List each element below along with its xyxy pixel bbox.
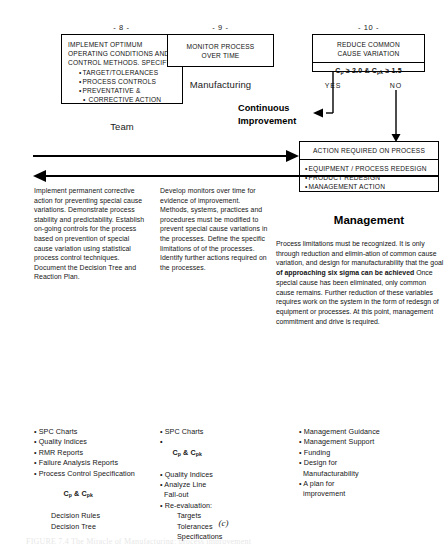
deliverable-item: RMR Reports	[34, 448, 174, 458]
deliverable-item: A plan for	[299, 479, 439, 489]
deliverables-management: Management Guidance Management Support F…	[299, 427, 439, 500]
step-8-bullet-last: CORRECTIVE ACTION	[79, 95, 182, 104]
description-team: Implement permanent corrective action fo…	[34, 186, 147, 282]
step-8-box-content: IMPLEMENT OPTIMUM OPERATING CONDITIONS A…	[62, 35, 182, 104]
branch-label-yes: YES	[318, 82, 348, 89]
step-10-box-title: REDUCE COMMON CAUSE VARIATION	[313, 35, 424, 58]
deliverable-item: Re-evaluation:	[160, 501, 280, 511]
deliverable-item: Manufacturability	[299, 469, 439, 479]
deliverable-item: Design for	[299, 458, 439, 468]
cpk-subscript: pk	[196, 451, 202, 457]
action-item: MANAGEMENT ACTION	[305, 182, 438, 191]
description-management: Process limitations must be recognized. …	[276, 239, 444, 326]
deliverable-item: Management Support	[299, 437, 439, 447]
deliverable-item: improvement	[299, 489, 439, 499]
description-management-part1: Process limitations must be recognized. …	[276, 240, 443, 266]
deliverable-item: Failure Analysis Reports	[34, 458, 174, 468]
deliverable-item: SPC Charts	[160, 427, 280, 437]
step-9-box-content: MONITOR PROCESS OVER TIME	[168, 35, 273, 60]
return-flow-arrowhead	[33, 170, 46, 182]
action-item: EQUIPMENT / PROCESS REDESIGN	[305, 164, 438, 173]
cpk-subscript: pk	[87, 492, 93, 498]
figure-caption-tail: FIGURE 7.4 The Miracle of Manufacturing:…	[26, 537, 446, 544]
deliverables-team: SPC Charts Quality Indices RMR Reports F…	[34, 427, 174, 532]
deliverable-item: Management Guidance	[299, 427, 439, 437]
action-required-header: ACTION REQUIRED ON PROCESS	[300, 142, 438, 155]
step-8-box[interactable]: IMPLEMENT OPTIMUM OPERATING CONDITIONS A…	[61, 34, 183, 104]
role-label-team: Team	[61, 121, 183, 132]
step-8-number: - 8 -	[60, 23, 183, 32]
figure-caption: (c)	[0, 518, 447, 528]
step-9-number: - 9 -	[167, 23, 274, 32]
deliverable-item: Quality Indices	[160, 470, 280, 480]
deliverable-item: Quality Indices	[34, 437, 174, 447]
continuous-improvement-label: Continuous Improvement	[238, 102, 318, 127]
deliverable-item-cp-cpk: Cp & Cpk	[34, 479, 174, 511]
deliverable-item: Fall-out	[160, 490, 280, 500]
deliverable-item-cp-cpk: Cp & Cpk	[160, 437, 280, 469]
deliverable-item: Analyze Line	[160, 480, 280, 490]
step-10-box[interactable]: REDUCE COMMON CAUSE VARIATION Cp ≥ 2.0 &…	[312, 34, 425, 72]
step-8-bullet: TARGET/TOLERANCES	[79, 68, 182, 77]
deliverable-item: Funding	[299, 448, 439, 458]
description-manufacturing: Develop monitors over time for evidence …	[160, 186, 268, 272]
action-required-box[interactable]: ACTION REQUIRED ON PROCESS EQUIPMENT / P…	[299, 141, 439, 192]
step-10-criterion: Cp ≥ 2.0 & Cpk ≥ 1.5	[313, 63, 424, 77]
description-management-emphasis: of approaching six sigma can be achieved	[276, 269, 414, 276]
branch-label-no: NO	[381, 82, 411, 89]
step-10-number: - 10 -	[312, 23, 425, 32]
step-8-bullet-last-text: CORRECTIVE ACTION	[89, 96, 162, 103]
role-label-manufacturing: Manufacturing	[155, 79, 286, 90]
cp-operator: ≥ 2.0 &	[344, 67, 372, 74]
cpk-operator: ≥ 1.5	[383, 67, 402, 74]
step-9-box[interactable]: MONITOR PROCESS OVER TIME	[167, 34, 274, 67]
description-management-part2: Once special cause has been eliminated, …	[276, 269, 439, 325]
role-label-management: Management	[299, 214, 439, 226]
figure-canvas: - 8 - IMPLEMENT OPTIMUM OPERATING CONDIT…	[0, 0, 447, 544]
action-item: PRODUCT REDESIGN	[305, 173, 438, 182]
step-8-line-1: IMPLEMENT OPTIMUM OPERATING CONDITIONS A…	[68, 40, 182, 68]
deliverable-item: SPC Charts	[34, 427, 174, 437]
forward-flow-arrowhead	[286, 150, 299, 162]
action-required-items: EQUIPMENT / PROCESS REDESIGN PRODUCT RED…	[300, 160, 438, 192]
deliverable-item: Process Control Specification	[34, 469, 174, 479]
